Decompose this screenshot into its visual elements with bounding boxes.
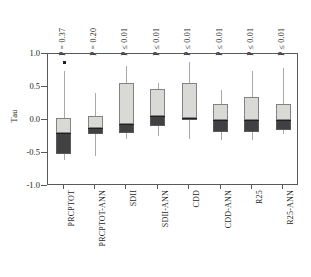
x-tick-mark [282,185,283,189]
x-category-label: PRCPTOT [67,190,76,226]
y-tick-label: 0.5 [29,81,40,91]
x-tick-mark [157,185,158,189]
x-category-label: R25 [255,190,264,204]
p-value-label: P = 0.20 [89,28,98,56]
x-category-label: R25-ANN [286,190,295,225]
y-tick-label: 1.0 [29,48,40,58]
p-value-label: P ≤ 0.01 [215,28,224,56]
x-tick-mark [220,185,221,189]
p-value-label: P ≤ 0.01 [277,28,286,56]
x-category-label: SDII-ANN [161,190,170,227]
y-tick-mark [41,152,47,153]
p-value-label: P ≤ 0.01 [152,28,161,56]
plot-area [47,53,298,185]
y-tick-mark [41,185,47,186]
x-category-label: CDD [192,190,201,208]
chart-container: Tau 1.00.50.0-0.5-1.0 PRCPTOTPRCPTOT-ANN… [0,0,311,277]
x-tick-mark [94,185,95,189]
y-tick-label: 0.0 [29,114,40,124]
x-tick-mark [125,185,126,189]
x-tick-mark [251,185,252,189]
x-tick-mark [188,185,189,189]
p-value-label: P ≤ 0.01 [183,28,192,56]
x-category-label: SDII [129,190,138,206]
p-value-label: P = 0.37 [58,28,67,56]
box-lower-quartile [276,120,291,130]
boxplot [48,54,297,184]
y-axis-ticks: 1.00.50.0-0.5-1.0 [0,0,40,277]
box-upper-quartile [276,104,291,120]
y-tick-label: -1.0 [27,180,40,190]
p-value-label: P ≤ 0.01 [120,28,129,56]
y-tick-label: -0.5 [27,147,40,157]
median-line [276,120,291,121]
y-tick-mark [41,86,47,87]
x-category-label: CDD-ANN [224,190,233,228]
x-tick-mark [63,185,64,189]
x-category-label: PRCPTOT-ANN [98,190,107,246]
p-value-label: P ≤ 0.01 [246,28,255,56]
y-tick-mark [41,119,47,120]
y-tick-mark [41,53,47,54]
